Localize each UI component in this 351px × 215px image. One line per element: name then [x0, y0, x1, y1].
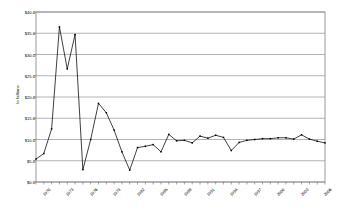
y-axis-tick-label: $0.0: [11, 180, 35, 185]
data-point-marker: [184, 140, 186, 142]
data-point-marker: [168, 134, 170, 136]
data-point-marker: [207, 137, 209, 139]
data-point-marker: [293, 138, 295, 140]
data-point-marker: [231, 150, 233, 152]
y-axis-tick-label: $35.0: [11, 31, 35, 36]
y-axis-tick-labels: $0.0$5.0$10.0$15.0$20.0$25.0$30.0$35.0$4…: [10, 0, 35, 215]
data-point-marker: [277, 137, 279, 139]
data-point-marker: [59, 26, 61, 28]
data-point-marker: [316, 140, 318, 142]
data-point-marker: [43, 153, 45, 155]
data-point-marker: [160, 151, 162, 153]
data-point-marker: [301, 134, 303, 136]
y-axis-tick-label: $30.0: [11, 52, 35, 57]
y-axis-tick-label: $40.0: [11, 10, 35, 15]
data-point-marker: [145, 146, 147, 148]
data-point-marker: [90, 139, 92, 141]
data-point-marker: [191, 142, 193, 144]
data-point-marker: [270, 138, 272, 140]
data-point-marker: [74, 34, 76, 36]
data-point-marker: [106, 112, 108, 114]
data-point-marker: [199, 135, 201, 137]
plot-area: [0, 0, 351, 215]
data-point-marker: [121, 151, 123, 153]
data-point-marker: [66, 68, 68, 70]
data-point-marker: [246, 140, 248, 142]
data-point-marker: [137, 147, 139, 149]
data-point-marker: [152, 144, 154, 146]
data-point-marker: [35, 158, 37, 160]
chart-container: In billions $0.0$5.0$10.0$15.0$20.0$25.0…: [0, 0, 351, 215]
data-point-marker: [113, 129, 115, 131]
data-point-marker: [238, 142, 240, 144]
data-point-marker: [129, 169, 131, 171]
data-point-marker: [309, 138, 311, 140]
data-point-marker: [254, 139, 256, 141]
data-point-marker: [223, 137, 225, 139]
data-point-marker: [82, 169, 84, 171]
data-point-marker: [285, 137, 287, 139]
data-point-marker: [215, 135, 217, 137]
y-axis-tick-label: $15.0: [11, 116, 35, 121]
y-axis-tick-label: $5.0: [11, 158, 35, 163]
data-point-marker: [98, 103, 100, 105]
y-axis-tick-label: $20.0: [11, 95, 35, 100]
data-point-marker: [324, 142, 326, 144]
y-axis-tick-label: $10.0: [11, 137, 35, 142]
data-point-marker: [176, 140, 178, 142]
data-point-marker: [51, 128, 53, 130]
data-point-marker: [262, 138, 264, 140]
y-axis-tick-label: $25.0: [11, 73, 35, 78]
